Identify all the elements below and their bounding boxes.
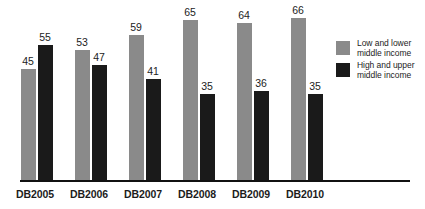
bar-value-low-db2008: 65: [176, 7, 204, 18]
legend-label-low-income-line1: Low and lower: [357, 38, 411, 48]
x-tick-label-db2005: DB2005: [8, 188, 62, 200]
bar-value-low-db2010: 66: [284, 5, 312, 16]
bar-low-db2009: [237, 23, 252, 180]
chart-legend: Low and lowermiddle income High and uppe…: [336, 40, 422, 84]
bar-low-db2008: [183, 20, 198, 180]
plot-area: 45 55 53 47 59 41 65 35 64 36 66 35: [0, 0, 425, 209]
x-tick-label-db2009: DB2009: [224, 188, 278, 200]
x-tick-label-db2006: DB2006: [62, 188, 116, 200]
x-tick-label-db2008: DB2008: [170, 188, 224, 200]
x-axis-line: [20, 180, 410, 182]
bar-value-high-db2006: 47: [85, 52, 113, 63]
legend-label-low-income: Low and lowermiddle income: [357, 39, 425, 59]
x-tick-label-db2007: DB2007: [116, 188, 170, 200]
bar-value-low-db2007: 59: [122, 22, 150, 33]
legend-item-low-income: Low and lowermiddle income: [336, 40, 422, 62]
legend-swatch-icon-high-income: [336, 63, 350, 77]
bar-value-low-db2006: 53: [68, 37, 96, 48]
bar-value-high-db2009: 36: [247, 78, 275, 89]
bar-high-db2008: [200, 94, 215, 180]
bar-high-db2010: [308, 94, 323, 180]
bar-chart: 45 55 53 47 59 41 65 35 64 36 66 35 DB20…: [0, 0, 425, 209]
legend-label-high-income-line2: middle income: [357, 70, 411, 80]
bar-low-db2006: [75, 50, 90, 180]
legend-label-low-income-line2: middle income: [357, 48, 411, 58]
bar-value-low-db2005: 45: [14, 56, 42, 67]
bar-value-high-db2005: 55: [31, 32, 59, 43]
legend-label-high-income: High and uppermiddle income: [357, 61, 425, 81]
bar-low-db2005: [21, 69, 36, 180]
bar-value-high-db2007: 41: [139, 66, 167, 77]
x-tick-label-db2010: DB2010: [278, 188, 332, 200]
bar-high-db2006: [92, 65, 107, 180]
bar-value-low-db2009: 64: [230, 10, 258, 21]
bar-high-db2009: [254, 91, 269, 180]
bar-low-db2007: [129, 35, 144, 180]
bar-high-db2007: [146, 79, 161, 180]
bar-value-high-db2008: 35: [193, 81, 221, 92]
bar-low-db2010: [291, 18, 306, 180]
bar-value-high-db2010: 35: [301, 81, 329, 92]
legend-swatch-icon-low-income: [336, 41, 350, 55]
legend-item-high-income: High and uppermiddle income: [336, 62, 422, 84]
legend-label-high-income-line1: High and upper: [357, 60, 414, 70]
